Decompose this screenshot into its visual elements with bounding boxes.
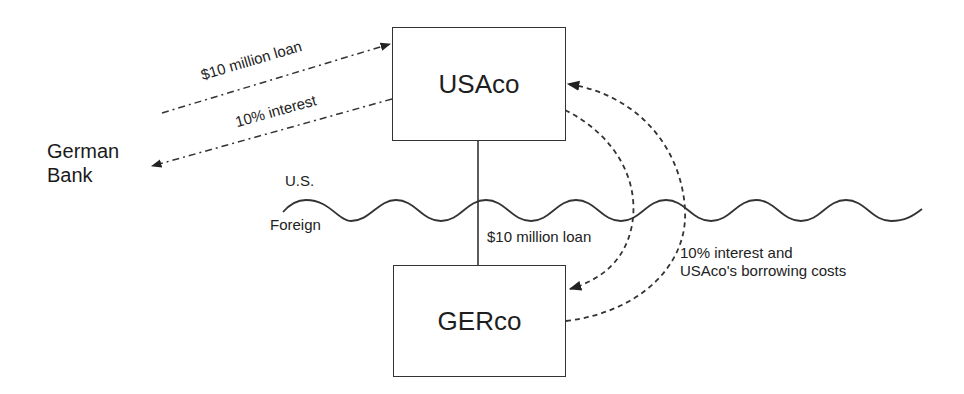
- intercompany-loan-label: $10 million loan: [487, 228, 591, 246]
- german-bank-label: German Bank: [47, 139, 119, 187]
- gerco-box: GERco: [393, 265, 566, 377]
- german-bank-line1: German: [47, 139, 119, 163]
- intercompany-interest-line1: 10% interest and: [680, 244, 846, 262]
- usaco-box: USAco: [392, 27, 566, 141]
- region-foreign-label: Foreign: [270, 216, 321, 234]
- intercompany-interest-arrow: [566, 84, 685, 321]
- border-wave-line: [283, 200, 922, 221]
- gerco-label: GERco: [438, 306, 522, 337]
- intercompany-interest-line2: USAco's borrowing costs: [680, 262, 846, 280]
- german-bank-line2: Bank: [47, 163, 119, 187]
- region-us-label: U.S.: [285, 172, 314, 190]
- usaco-label: USAco: [439, 69, 520, 100]
- intercompany-interest-label: 10% interest and USAco's borrowing costs: [680, 244, 846, 280]
